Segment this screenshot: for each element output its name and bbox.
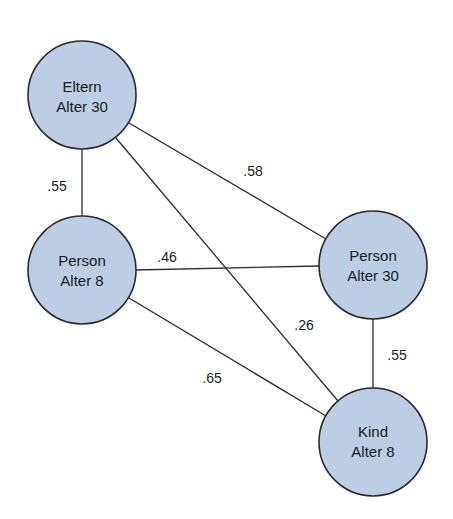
node-person30: Person Alter 30	[319, 211, 427, 319]
node-label-line2: Alter 30	[347, 267, 399, 284]
node-label-line1: Person	[349, 247, 397, 264]
edge-person8-kind8	[129, 298, 326, 416]
node-label-line1: Person	[58, 252, 106, 269]
node-person8: Person Alter 8	[28, 216, 136, 324]
node-circle	[28, 216, 136, 324]
edge-label-person8-person30: .46	[157, 249, 177, 265]
node-label-line2: Alter 30	[56, 98, 108, 115]
node-label-line2: Alter 8	[351, 443, 394, 460]
edge-label-eltern30-person8: .55	[47, 178, 67, 194]
node-circle	[319, 388, 427, 496]
correlation-diagram: .55 .58 .26 .46 .65 .55 Eltern Alter 30 …	[0, 0, 453, 519]
edge-label-eltern30-person30: .58	[243, 163, 263, 179]
node-label-line1: Kind	[358, 423, 388, 440]
node-eltern30: Eltern Alter 30	[28, 41, 136, 149]
edge-eltern30-person30	[129, 123, 326, 239]
node-kind8: Kind Alter 8	[319, 388, 427, 496]
node-circle	[319, 211, 427, 319]
node-circle	[28, 41, 136, 149]
node-label-line1: Eltern	[62, 78, 101, 95]
edge-label-eltern30-kind8: .26	[294, 317, 314, 333]
edge-label-person8-kind8: .65	[202, 370, 222, 386]
edge-label-person30-kind8: .55	[387, 347, 407, 363]
node-label-line2: Alter 8	[60, 272, 103, 289]
